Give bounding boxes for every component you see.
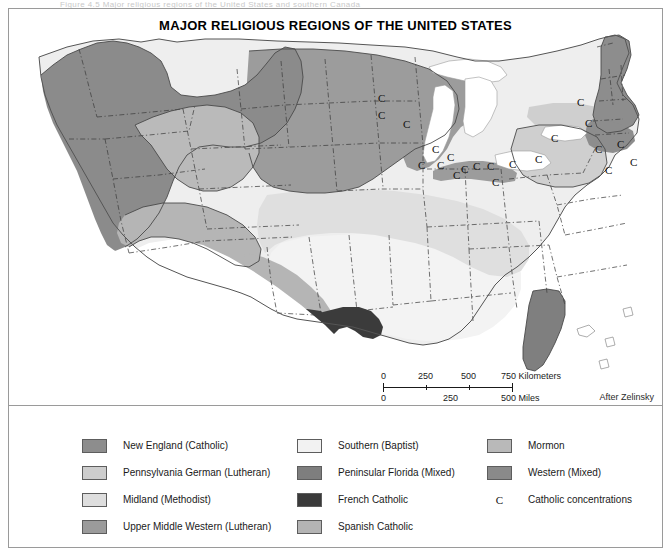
catholic-concentration-marker: C: [461, 164, 468, 175]
map-scalebar: 0 250 500 750 Kilometers 0 250 500 Miles: [381, 371, 551, 404]
legend-swatch-southern-baptist: [297, 439, 322, 453]
legend-swatch-new-england-catholic: [82, 439, 107, 453]
catholic-concentration-marker: C: [403, 119, 410, 130]
catholic-concentration-marker: C: [605, 165, 612, 176]
catholic-concentration-marker: C: [535, 154, 542, 165]
catholic-concentration-marker: C: [509, 159, 516, 170]
legend-label-midland-methodist: Midland (Methodist): [123, 494, 211, 505]
legend-item-catholic-concentrations[interactable]: CCatholic concentrations: [487, 486, 632, 513]
legend-swatch-midland-methodist: [82, 493, 107, 507]
legend-swatch-spanish-catholic: [297, 520, 322, 534]
legend-label-western-mixed: Western (Mixed): [528, 467, 601, 478]
catholic-concentration-marker: C: [378, 110, 385, 121]
scalebar-mi-250: 250: [443, 393, 458, 404]
catholic-concentration-marker: C: [595, 144, 602, 155]
legend-item-upper-middle-western-lutheran[interactable]: Upper Middle Western (Lutheran): [82, 513, 271, 540]
scalebar-mi-0: 0: [381, 393, 386, 404]
scalebar-km-500: 500: [461, 371, 476, 382]
scalebar-km-750: 750 Kilometers: [501, 371, 561, 382]
catholic-concentration-marker: C: [487, 161, 494, 172]
legend-item-peninsular-florida-mixed[interactable]: Peninsular Florida (Mixed): [297, 459, 455, 486]
legend-swatch-western-mixed: [487, 466, 512, 480]
legend-label-new-england-catholic: New England (Catholic): [123, 440, 228, 451]
legend-label-mormon: Mormon: [528, 440, 565, 451]
legend-label-upper-middle-western-lutheran: Upper Middle Western (Lutheran): [123, 521, 271, 532]
legend-swatch-mormon: [487, 439, 512, 453]
legend-column-1: New England (Catholic)Pennsylvania Germa…: [82, 432, 271, 540]
catholic-concentration-marker: C: [437, 160, 444, 171]
legend-item-new-england-catholic[interactable]: New England (Catholic): [82, 432, 271, 459]
catholic-concentration-marker: C: [453, 170, 460, 181]
legend-item-western-mixed[interactable]: Western (Mixed): [487, 459, 632, 486]
scalebar-bar: [381, 383, 551, 392]
legend-swatch-upper-middle-western-lutheran: [82, 520, 107, 534]
map-panel[interactable]: MAJOR RELIGIOUS REGIONS OF THE UNITED ST…: [9, 9, 662, 405]
map-figure-page: Figure 4.5 Major religious regions of th…: [0, 0, 671, 555]
legend-label-catholic-concentrations: Catholic concentrations: [528, 494, 632, 505]
catholic-concentration-marker: C: [585, 118, 592, 129]
scalebar-mi-500: 500 Miles: [501, 393, 540, 404]
scalebar-km-0: 0: [381, 371, 386, 382]
catholic-concentration-marker: C: [473, 161, 480, 172]
legend-label-southern-baptist: Southern (Baptist): [338, 440, 419, 451]
figure-frame: MAJOR RELIGIOUS REGIONS OF THE UNITED ST…: [8, 8, 663, 548]
legend-column-2: Southern (Baptist)Peninsular Florida (Mi…: [297, 432, 455, 540]
legend-swatch-french-catholic: [297, 493, 322, 507]
legend-item-midland-methodist[interactable]: Midland (Methodist): [82, 486, 271, 513]
catholic-concentration-marker: C: [577, 97, 584, 108]
legend-swatch-peninsular-florida-mixed: [297, 466, 322, 480]
catholic-concentration-marker: C: [551, 133, 558, 144]
legend-label-french-catholic: French Catholic: [338, 494, 408, 505]
catholic-concentration-marker: C: [432, 144, 439, 155]
catholic-concentration-marker: C: [418, 160, 425, 171]
catholic-concentration-marker: C: [492, 177, 499, 188]
catholic-concentration-marker: C: [378, 93, 385, 104]
catholic-concentration-marker: C: [447, 152, 454, 163]
legend-item-southern-baptist[interactable]: Southern (Baptist): [297, 432, 455, 459]
map-legend: New England (Catholic)Pennsylvania Germa…: [9, 406, 662, 547]
legend-label-spanish-catholic: Spanish Catholic: [338, 521, 413, 532]
scalebar-km-labels: 0 250 500 750 Kilometers: [381, 371, 551, 382]
legend-glyph-catholic-concentrations: C: [487, 493, 512, 507]
legend-column-3: MormonWestern (Mixed)CCatholic concentra…: [487, 432, 632, 513]
catholic-concentration-marker: C: [630, 157, 637, 168]
legend-label-pennsylvania-german-lutheran: Pennsylvania German (Lutheran): [123, 467, 270, 478]
us-religious-regions-map[interactable]: [9, 9, 662, 405]
legend-swatch-pennsylvania-german-lutheran: [82, 466, 107, 480]
scalebar-mi-labels: 0 250 500 Miles: [381, 393, 551, 404]
legend-item-pennsylvania-german-lutheran[interactable]: Pennsylvania German (Lutheran): [82, 459, 271, 486]
figure-caption-clipped: Figure 4.5 Major religious regions of th…: [0, 0, 671, 8]
legend-item-mormon[interactable]: Mormon: [487, 432, 632, 459]
scalebar-km-250: 250: [418, 371, 433, 382]
legend-item-spanish-catholic[interactable]: Spanish Catholic: [297, 513, 455, 540]
catholic-concentration-marker: C: [617, 139, 624, 150]
legend-item-french-catholic[interactable]: French Catholic: [297, 486, 455, 513]
map-attribution: After Zelinsky: [599, 392, 654, 402]
legend-label-peninsular-florida-mixed: Peninsular Florida (Mixed): [338, 467, 455, 478]
